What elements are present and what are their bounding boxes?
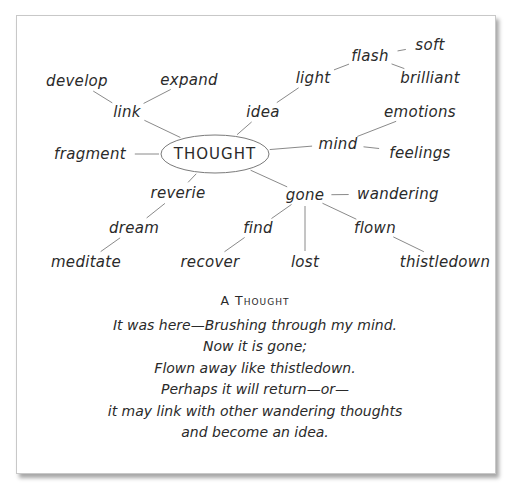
edge-thought-link (144, 120, 180, 137)
edge-find-recover (224, 237, 244, 251)
node-brilliant: brilliant (400, 69, 460, 87)
node-expand: expand (160, 71, 218, 89)
node-emotions: emotions (384, 103, 456, 121)
node-wandering: wandering (357, 185, 439, 203)
edge-flown-thistledown (393, 237, 424, 252)
node-flash: flash (351, 47, 388, 65)
edge-thought-mind (270, 146, 312, 149)
edge-light-flash (334, 64, 349, 70)
node-dream: dream (109, 219, 159, 237)
node-feelings: feelings (389, 144, 450, 162)
poem-line: Flown away like thistledown. (16, 358, 494, 380)
edge-gone-flown (322, 203, 356, 219)
poem-title: A Thought (16, 290, 494, 312)
node-reverie: reverie (150, 184, 205, 202)
node-light: light (296, 69, 331, 87)
node-thistledown: thistledown (400, 253, 490, 271)
node-mind: mind (318, 135, 357, 153)
node-develop: develop (46, 72, 108, 90)
poem-line: Now it is gone; (16, 336, 494, 358)
edge-flash-brilliant (392, 64, 405, 69)
node-find: find (243, 219, 273, 237)
edge-thought-idea (237, 122, 252, 135)
poem-line: and become an idea. (16, 422, 494, 444)
edge-idea-light (277, 88, 299, 103)
node-meditate: meditate (51, 253, 121, 271)
node-gone: gone (286, 186, 325, 204)
node-recover: recover (180, 253, 239, 271)
node-soft: soft (415, 36, 444, 54)
edge-gone-find (271, 204, 291, 218)
poem: A Thought It was here—Brushing through m… (16, 290, 494, 444)
edge-thought-reverie (188, 174, 196, 183)
edge-dream-meditate (101, 238, 120, 252)
node-fragment: fragment (54, 145, 126, 163)
node-idea: idea (246, 103, 279, 121)
poem-line: Perhaps it will return—or— (16, 379, 494, 401)
edge-mind-feelings (364, 147, 380, 149)
center-node-thought: THOUGHT (174, 145, 256, 163)
poem-line: It was here—Brushing through my mind. (16, 315, 494, 337)
edge-mind-emotions (357, 121, 396, 136)
node-link: link (113, 103, 141, 121)
edge-reverie-dream (147, 203, 165, 218)
node-lost: lost (291, 253, 319, 271)
edge-thought-gone (251, 170, 288, 187)
node-flown: flown (354, 219, 396, 237)
edge-flash-soft (398, 49, 406, 51)
poem-line: it may link with other wandering thought… (16, 401, 494, 423)
edge-link-develop (93, 91, 112, 103)
edge-link-expand (144, 89, 171, 103)
